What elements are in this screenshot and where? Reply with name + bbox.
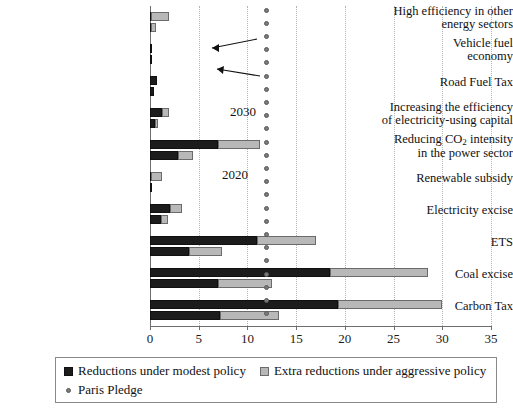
- gridline-10: [247, 6, 248, 326]
- bar-2020-9: [150, 311, 279, 320]
- paris-pledge-dot: [264, 140, 269, 145]
- y-axis-line: [150, 6, 151, 326]
- bar-2020-8: [150, 279, 272, 288]
- bar-segment-aggressive: [170, 204, 182, 213]
- legend-item-aggressive: Extra reductions under aggressive policy: [260, 363, 486, 379]
- paris-pledge-dot: [264, 21, 269, 26]
- annotation-2020-text: 2020: [222, 167, 248, 182]
- category-label-7: ETS: [368, 236, 513, 249]
- paris-pledge-dot: [264, 166, 269, 171]
- paris-pledge-dot: [264, 8, 269, 13]
- category-label-5: Renewable subsidy: [368, 172, 513, 185]
- paris-pledge-dot: [264, 47, 269, 52]
- bar-segment-modest: [150, 87, 154, 96]
- gridline-20: [345, 6, 346, 326]
- bar-2030-6: [150, 204, 182, 213]
- bar-segment-aggressive: [151, 23, 156, 32]
- bar-2030-0: [150, 12, 169, 21]
- category-label-1: Vehicle fueleconomy: [368, 37, 513, 63]
- paris-pledge-dot: [264, 126, 269, 131]
- category-label-line: ETS: [368, 236, 513, 249]
- category-label-line: Electricity excise: [368, 204, 513, 217]
- tick-25: [394, 326, 395, 330]
- paris-pledge-dot: [264, 113, 269, 118]
- paris-pledge-dot: [264, 219, 269, 224]
- bar-segment-aggressive: [162, 108, 169, 117]
- tick-5: [199, 326, 200, 330]
- bar-segment-aggressive: [220, 311, 278, 320]
- bar-segment-modest: [150, 247, 189, 256]
- paris-pledge-dot: [264, 87, 269, 92]
- bar-2030-9: [150, 300, 442, 309]
- bar-2020-3: [150, 119, 158, 128]
- bar-segment-modest: [150, 311, 220, 320]
- legend-dot-icon: [66, 388, 71, 393]
- bar-2020-2: [150, 87, 154, 96]
- tick-label-0: 0: [130, 331, 170, 347]
- tick-label-5: 5: [179, 331, 219, 347]
- bar-2030-5: [150, 172, 162, 181]
- paris-pledge-dot: [264, 179, 269, 184]
- tick-10: [247, 326, 248, 330]
- category-label-line: of electricity-using capital: [368, 114, 513, 127]
- legend-item-paris-pledge: Paris Pledge: [64, 382, 143, 398]
- paris-pledge-dot: [264, 153, 269, 158]
- annotation-2020: 2020: [222, 167, 248, 183]
- bar-segment-aggressive: [151, 172, 162, 181]
- category-label-line: economy: [368, 50, 513, 63]
- legend-label-modest: Reductions under modest policy: [78, 363, 246, 379]
- category-label-line: in the power sector: [368, 147, 513, 160]
- tick-20: [345, 326, 346, 330]
- tick-label-15: 15: [276, 331, 316, 347]
- category-label-line: Renewable subsidy: [368, 172, 513, 185]
- category-label-2: Road Fuel Tax: [368, 76, 513, 89]
- gridline-5: [199, 6, 200, 326]
- bar-segment-modest: [150, 140, 218, 149]
- bar-segment-aggressive: [330, 268, 427, 277]
- bar-2020-7: [150, 247, 222, 256]
- gridline-15: [296, 6, 297, 326]
- legend-label-aggressive: Extra reductions under aggressive policy: [274, 363, 486, 379]
- bar-2030-4: [150, 140, 260, 149]
- paris-pledge-dot: [264, 34, 269, 39]
- legend-label-paris-pledge: Paris Pledge: [78, 382, 143, 398]
- bar-segment-modest: [150, 300, 338, 309]
- bar-segment-modest: [150, 55, 152, 64]
- x-axis-line: [150, 326, 492, 327]
- tick-label-35: 35: [471, 331, 511, 347]
- category-label-line: Reducing CO2 intensity: [368, 133, 513, 147]
- tick-30: [442, 326, 443, 330]
- bar-segment-modest: [150, 151, 178, 160]
- tick-15: [296, 326, 297, 330]
- legend-item-modest: Reductions under modest policy: [64, 363, 246, 379]
- paris-pledge-dot: [264, 74, 269, 79]
- paris-pledge-dot: [264, 258, 269, 263]
- annotation-2030-text: 2030: [230, 104, 256, 119]
- paris-pledge-dot: [264, 272, 269, 277]
- bar-2030-3: [150, 108, 169, 117]
- bar-2030-2: [150, 76, 157, 85]
- paris-pledge-dot: [264, 60, 269, 65]
- paris-pledge-dot: [264, 245, 269, 250]
- bar-2030-7: [150, 236, 316, 245]
- bar-segment-modest: [150, 279, 218, 288]
- bar-segment-modest: [150, 76, 157, 85]
- tick-label-10: 10: [227, 331, 267, 347]
- bar-2020-0: [150, 23, 156, 32]
- tick-35: [491, 326, 492, 330]
- category-label-line: Road Fuel Tax: [368, 76, 513, 89]
- bar-2030-1: [150, 44, 152, 53]
- legend-swatch-dark-icon: [64, 367, 73, 376]
- legend-swatch-light-icon: [260, 367, 269, 376]
- bar-segment-modest: [150, 183, 152, 192]
- bar-segment-modest: [150, 236, 257, 245]
- bar-segment-aggressive: [178, 151, 193, 160]
- bar-segment-modest: [150, 204, 170, 213]
- bar-segment-modest: [150, 215, 161, 224]
- paris-pledge-dot: [264, 285, 269, 290]
- category-label-0: High efficiency in otherenergy sectors: [368, 5, 513, 31]
- bar-segment-aggressive: [151, 12, 169, 21]
- bar-2030-8: [150, 268, 428, 277]
- bar-segment-modest: [150, 44, 152, 53]
- tick-label-20: 20: [325, 331, 365, 347]
